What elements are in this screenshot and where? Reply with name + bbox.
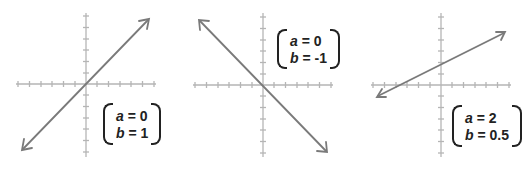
chart-panel-3: a = 2 b = 0.5 <box>351 0 526 170</box>
plot-area-2 <box>176 0 351 170</box>
param-label-1: a = 0 b = 1 <box>103 103 161 145</box>
right-paren <box>330 29 340 69</box>
param-b: b = 0.5 <box>465 127 509 144</box>
param-b: b = -1 <box>290 50 327 67</box>
param-label-2: a = 0 b = -1 <box>277 29 340 69</box>
chart-panel-1: a = 0 b = 1 <box>0 0 175 170</box>
right-paren <box>512 105 522 147</box>
right-paren <box>151 103 161 145</box>
left-paren <box>103 103 113 145</box>
param-b: b = 1 <box>116 125 148 142</box>
left-paren <box>452 105 462 147</box>
left-paren <box>277 29 287 69</box>
chart-panel-2: a = 0 b = -1 <box>176 0 351 170</box>
param-a: a = 0 <box>290 33 327 50</box>
param-a: a = 0 <box>116 108 148 125</box>
param-label-3: a = 2 b = 0.5 <box>452 105 522 147</box>
param-a: a = 2 <box>465 110 509 127</box>
